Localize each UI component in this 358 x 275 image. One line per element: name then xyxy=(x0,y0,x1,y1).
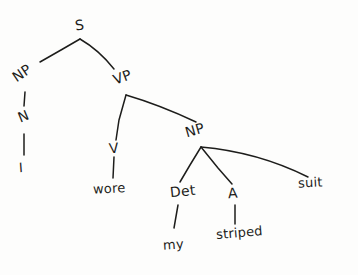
branch-vp-to-v xyxy=(116,95,126,140)
branch-s-to-vp xyxy=(80,39,114,69)
leaf-my: my xyxy=(163,237,185,251)
leaf-striped: striped xyxy=(216,224,264,241)
node-a: A xyxy=(228,186,239,201)
leaf-wore: wore xyxy=(93,181,126,196)
branch-det-to-my xyxy=(174,205,178,228)
syntax-tree-diagram: S NP N I VP V wore NP Det my A striped s… xyxy=(0,0,358,275)
branch-np-object-to-suit xyxy=(201,147,308,177)
branch-vp-to-np-object xyxy=(126,95,196,122)
branch-np-subject-to-n xyxy=(24,92,25,106)
leaf-suit: suit xyxy=(298,175,323,189)
node-v: V xyxy=(108,141,119,156)
branch-v-to-wore xyxy=(113,157,114,178)
branch-np-object-to-det xyxy=(180,147,201,182)
branch-s-to-np-subject xyxy=(40,39,80,62)
branch-np-object-to-a xyxy=(201,147,232,184)
node-s: S xyxy=(74,17,85,32)
leaf-i: I xyxy=(19,161,24,174)
node-det: Det xyxy=(169,183,196,200)
tree-branches xyxy=(0,0,358,275)
